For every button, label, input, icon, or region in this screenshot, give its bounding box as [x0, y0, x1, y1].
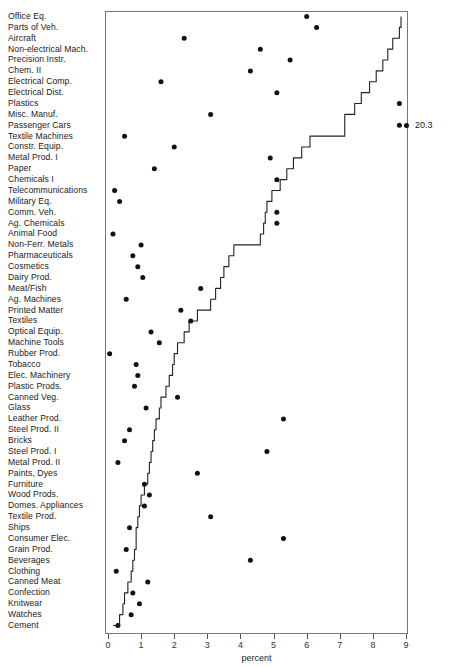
- outlier-annotation-label: 20.3: [415, 120, 433, 130]
- data-point: [122, 438, 127, 443]
- x-axis-tick-labels: 0123456789: [105, 640, 408, 654]
- data-point: [182, 36, 187, 41]
- data-point: [127, 525, 132, 530]
- data-point: [195, 471, 200, 476]
- category-label: Aircraft: [8, 34, 104, 43]
- category-label: Steel Prod. II: [8, 425, 104, 434]
- data-point: [115, 460, 120, 465]
- category-label: Leather Prod.: [8, 414, 104, 423]
- axis-tick: [274, 634, 275, 639]
- outlier-data-point: [404, 123, 409, 128]
- category-label: Steel Prod. I: [8, 447, 104, 456]
- data-point: [147, 493, 152, 498]
- data-point: [130, 590, 135, 595]
- data-point: [145, 580, 150, 585]
- axis-tick-label: 2: [164, 640, 184, 650]
- category-label: Metal Prod. II: [8, 458, 104, 467]
- data-point: [124, 547, 129, 552]
- category-label: Chemicals I: [8, 175, 104, 184]
- category-label: Watches: [8, 610, 104, 619]
- data-point: [264, 449, 269, 454]
- category-label: Chem. II: [8, 66, 104, 75]
- data-point: [178, 308, 183, 313]
- data-point: [248, 68, 253, 73]
- data-point: [152, 166, 157, 171]
- axis-tick-label: 0: [98, 640, 118, 650]
- category-label: Knitwear: [8, 599, 104, 608]
- data-point: [248, 558, 253, 563]
- axis-tick: [240, 634, 241, 639]
- data-point: [274, 221, 279, 226]
- plot-graphics: [105, 11, 408, 634]
- category-label: Passenger Cars: [8, 121, 104, 130]
- data-point: [114, 569, 119, 574]
- axis-tick: [340, 634, 341, 639]
- data-point: [188, 319, 193, 324]
- category-label: Ag. Chemicals: [8, 219, 104, 228]
- category-label: Clothing: [8, 567, 104, 576]
- data-point: [107, 351, 112, 356]
- data-point: [208, 112, 213, 117]
- axis-tick: [174, 634, 175, 639]
- category-label: Confection: [8, 588, 104, 597]
- data-point: [198, 286, 203, 291]
- category-label-column: Office Eq.Parts of Veh.AircraftNon-elect…: [8, 10, 104, 630]
- category-label: Paints, Dyes: [8, 469, 104, 478]
- data-point: [314, 25, 319, 30]
- category-label: Non-Ferr. Metals: [8, 240, 104, 249]
- data-point: [139, 242, 144, 247]
- x-axis-title: percent: [105, 653, 408, 663]
- category-label: Wood Prods.: [8, 490, 104, 499]
- category-label: Comm. Veh.: [8, 208, 104, 217]
- data-point: [258, 47, 263, 52]
- axis-tick-label: 6: [297, 640, 317, 650]
- data-point: [127, 427, 132, 432]
- data-point: [274, 177, 279, 182]
- axis-tick: [207, 634, 208, 639]
- data-point: [144, 406, 149, 411]
- data-point: [274, 90, 279, 95]
- category-label: Printed Matter: [8, 306, 104, 315]
- data-point: [134, 362, 139, 367]
- category-label: Parts of Veh.: [8, 23, 104, 32]
- category-label: Canned Veg.: [8, 393, 104, 402]
- data-point: [149, 329, 154, 334]
- data-point: [274, 210, 279, 215]
- data-point: [135, 264, 140, 269]
- data-point: [208, 514, 213, 519]
- category-label: Tobacco: [8, 360, 104, 369]
- data-point: [281, 536, 286, 541]
- axis-tick-label: 7: [330, 640, 350, 650]
- category-label: Meat/Fish: [8, 284, 104, 293]
- data-point: [112, 188, 117, 193]
- data-point: [172, 145, 177, 150]
- category-label: Rubber Prod.: [8, 349, 104, 358]
- data-point: [132, 384, 137, 389]
- data-point: [124, 297, 129, 302]
- category-label: Animal Food: [8, 229, 104, 238]
- category-label: Bricks: [8, 436, 104, 445]
- data-point: [397, 123, 402, 128]
- axis-tick: [307, 634, 308, 639]
- category-label: Textiles: [8, 316, 104, 325]
- category-label: Non-electrical Mach.: [8, 45, 104, 54]
- category-label: Office Eq.: [8, 12, 104, 21]
- data-point: [135, 373, 140, 378]
- data-point: [157, 340, 162, 345]
- category-label: Metal Prod. I: [8, 153, 104, 162]
- category-label: Furniture: [8, 480, 104, 489]
- axis-tick: [373, 634, 374, 639]
- category-label: Ships: [8, 523, 104, 532]
- data-point: [110, 232, 115, 237]
- category-label: Optical Equip.: [8, 327, 104, 336]
- category-label: Cement: [8, 621, 104, 630]
- category-label: Military Eq.: [8, 197, 104, 206]
- category-label: Beverages: [8, 556, 104, 565]
- category-label: Textile Machines: [8, 132, 104, 141]
- axis-tick-label: 3: [197, 640, 217, 650]
- category-label: Pharmaceuticals: [8, 251, 104, 260]
- data-point: [137, 601, 142, 606]
- data-point: [175, 395, 180, 400]
- category-label: Machine Tools: [8, 338, 104, 347]
- data-point: [129, 612, 134, 617]
